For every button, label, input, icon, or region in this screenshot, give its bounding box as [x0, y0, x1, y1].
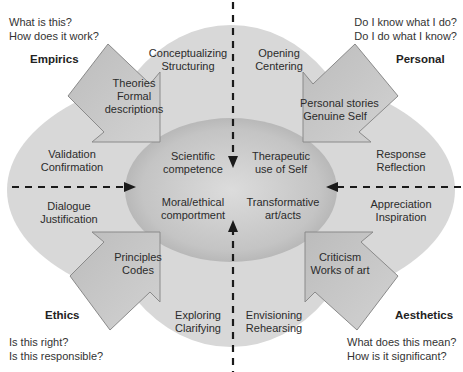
empirics-arrow-text: Theories Formal descriptions	[103, 77, 165, 116]
ethics-outer-side-text: Dialogue Justification	[38, 200, 100, 226]
personal-title: Personal	[396, 53, 445, 65]
empirics-outer-side-text: Validation Confirmation	[40, 148, 104, 174]
personal-outer-top-text: Opening Centering	[251, 47, 307, 73]
empirics-outer-top-text: Conceptualizing Structuring	[148, 47, 228, 73]
ethics-arrow-text: Principles Codes	[112, 251, 164, 277]
ethics-title: Ethics	[45, 309, 80, 321]
aesthetics-title: Aesthetics	[395, 309, 453, 321]
aesthetics-outer-bottom-text: Envisioning Rehearsing	[244, 309, 304, 335]
empirics-questions: What is this? How does it work?	[9, 16, 99, 43]
aesthetics-outer-side-text: Appreciation Inspiration	[369, 198, 433, 224]
personal-questions: Do I know what I do? Do I do what I know…	[354, 16, 457, 43]
empirics-title: Empirics	[30, 53, 79, 65]
ethics-questions: Is this right? Is this responsible?	[9, 336, 103, 363]
personal-outer-side-text: Response Reflection	[373, 148, 429, 174]
aesthetics-inner-text: Transformative art/acts	[244, 196, 322, 222]
personal-arrow-text: Personal stories Genuine Self	[300, 97, 370, 123]
aesthetics-questions: What does this mean? How is it significa…	[347, 336, 456, 363]
personal-inner-text: Therapeutic use of Self	[246, 150, 316, 176]
ethics-outer-bottom-text: Exploring Clarifying	[170, 309, 226, 335]
empirics-inner-text: Scientific competence	[160, 150, 226, 176]
aesthetics-arrow-text: Criticism Works of art	[309, 251, 371, 277]
ethics-inner-text: Moral/ethical comportment	[155, 196, 231, 222]
